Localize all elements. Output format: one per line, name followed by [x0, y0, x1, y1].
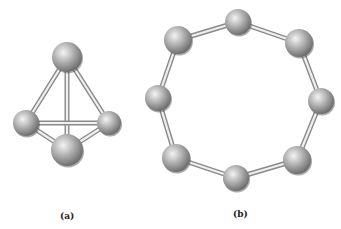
atom	[13, 110, 39, 136]
atom	[164, 26, 192, 54]
atom	[51, 134, 83, 166]
atom	[283, 146, 311, 174]
atom	[52, 42, 82, 72]
molecular-structures-diagram	[0, 0, 341, 229]
panel-b-ring	[145, 9, 335, 193]
atom	[223, 165, 249, 191]
panel-a-tetrahedron	[13, 42, 122, 168]
atom	[162, 144, 190, 172]
atom	[225, 9, 251, 35]
atom	[308, 88, 334, 114]
panel-a-label: (a)	[60, 211, 74, 221]
figure-canvas: (a) (b)	[0, 0, 341, 229]
atom	[285, 29, 313, 57]
atom	[145, 85, 171, 111]
panel-b-label: (b)	[233, 209, 248, 219]
atom	[97, 111, 121, 135]
